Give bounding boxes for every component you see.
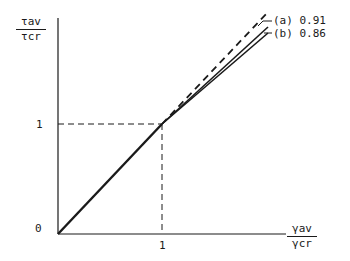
leader-line-a — [258, 21, 272, 26]
y-axis-label-denominator: τcr — [16, 30, 46, 43]
x-axis-label-denominator: γcr — [287, 237, 317, 250]
linear-segment — [58, 124, 162, 234]
y-axis-label-numerator: τav — [16, 16, 46, 30]
curve-dashed — [162, 12, 268, 124]
x-tick-label: 1 — [159, 240, 166, 251]
y-axis-label: τav τcr — [16, 16, 46, 43]
y-tick-label: 1 — [36, 119, 43, 130]
curve-b-label: (b) 0.86 — [273, 28, 326, 39]
curve-a-label: (a) 0.91 — [273, 15, 326, 26]
x-axis-label-numerator: γav — [287, 223, 317, 237]
curve-b — [162, 33, 268, 124]
x-axis-label: γav γcr — [287, 223, 317, 250]
origin-label: 0 — [35, 223, 42, 234]
